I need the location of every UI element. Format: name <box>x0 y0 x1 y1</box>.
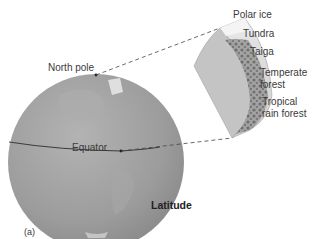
panel-label: (a) <box>24 227 35 238</box>
biome-label-temperate-forest-line2: forest <box>260 79 285 90</box>
biome-label-tropical-rain-forest-line2: rain forest <box>262 108 306 119</box>
biome-label-taiga: Taiga <box>250 46 274 57</box>
north-pole-label: North pole <box>48 62 94 73</box>
biome-label-polar-ice: Polar ice <box>233 9 272 20</box>
equator-label: Equator <box>72 142 107 153</box>
figure-title: Latitude <box>151 200 192 211</box>
biome-label-tropical-rain-forest-line1: Tropical <box>262 96 297 107</box>
biome-label-tundra: Tundra <box>243 28 274 39</box>
globe <box>8 74 184 239</box>
biome-label-temperate-forest-line1: Temperate <box>260 67 307 78</box>
